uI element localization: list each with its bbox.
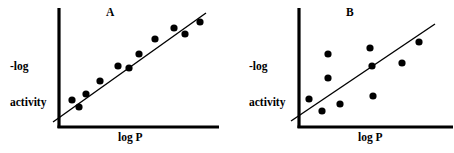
data-point <box>96 77 103 84</box>
data-point <box>368 62 375 69</box>
data-point <box>125 64 132 71</box>
panel-b: -log activity log P B <box>227 0 454 153</box>
data-point <box>135 50 142 57</box>
data-point <box>318 107 325 114</box>
data-point <box>366 44 373 51</box>
data-point <box>398 59 405 66</box>
data-point <box>196 18 203 25</box>
data-point <box>75 103 82 110</box>
panel-b-data-points <box>305 38 422 114</box>
panel-a: -log activity log P A <box>0 0 227 153</box>
panel-b-letter: B <box>346 6 354 18</box>
panel-a-y-axis-label: -log activity <box>10 36 46 133</box>
data-point <box>114 62 121 69</box>
panel-b-y-axis-label-line1: -log <box>249 60 285 72</box>
data-point <box>151 35 158 42</box>
data-point <box>170 24 177 31</box>
panel-b-y-axis-label-line2: activity <box>249 96 285 108</box>
panel-b-regression-line <box>291 24 435 121</box>
panel-b-x-axis-label: log P <box>358 131 383 143</box>
panel-a-x-axis-label: log P <box>118 131 143 143</box>
data-point <box>305 95 312 102</box>
panel-b-y-axis-label: -log activity <box>249 36 285 133</box>
panel-a-y-axis-label-line1: -log <box>10 60 46 72</box>
data-point <box>82 90 89 97</box>
data-point <box>324 50 331 57</box>
data-point <box>181 30 188 37</box>
data-point <box>369 92 376 99</box>
data-point <box>415 38 422 45</box>
data-point <box>324 74 331 81</box>
data-point <box>68 96 75 103</box>
figure-container: -log activity log P A <box>0 0 454 153</box>
data-point <box>336 100 343 107</box>
panel-a-y-axis-label-line2: activity <box>10 96 46 108</box>
panel-a-letter: A <box>106 6 114 18</box>
